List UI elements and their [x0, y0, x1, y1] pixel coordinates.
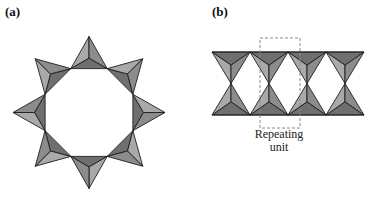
repeating-unit-caption-line2: unit	[239, 141, 319, 154]
silicate-structures-diagram	[0, 0, 371, 197]
panel-b-double-chain	[212, 52, 364, 115]
panel-a-ring-of-tetrahedra	[13, 37, 165, 189]
